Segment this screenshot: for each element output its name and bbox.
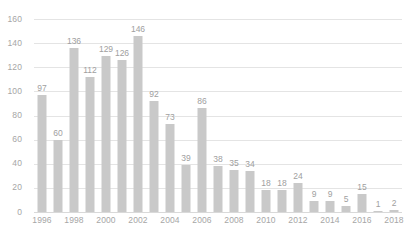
- bar-value-label: 18: [277, 179, 286, 188]
- x-axis-tick-label: 2010: [256, 216, 275, 225]
- bar-value-label: 2: [392, 199, 397, 208]
- bar-series: 9760136112129126146927339863835341818249…: [34, 19, 402, 212]
- bar-value-label: 112: [83, 66, 97, 75]
- bar-group[interactable]: 129: [98, 19, 114, 212]
- bar[interactable]: [198, 108, 207, 212]
- bar-value-label: 38: [213, 155, 222, 164]
- bar-group[interactable]: 9: [322, 19, 338, 212]
- bar-group[interactable]: 35: [226, 19, 242, 212]
- bar-group[interactable]: 136: [66, 19, 82, 212]
- bar-value-label: 60: [53, 129, 62, 138]
- bar-value-label: 9: [312, 190, 317, 199]
- bar-value-label: 24: [293, 172, 302, 181]
- bar[interactable]: [342, 206, 351, 212]
- y-axis-tick-label: 160: [0, 15, 22, 24]
- bar[interactable]: [118, 60, 127, 212]
- bar[interactable]: [310, 201, 319, 212]
- bar-value-label: 1: [376, 200, 381, 209]
- y-axis-tick-label: 20: [0, 183, 22, 192]
- bar[interactable]: [358, 194, 367, 212]
- x-axis-tick-label: 1998: [64, 216, 83, 225]
- bar[interactable]: [326, 201, 335, 212]
- bar[interactable]: [54, 140, 63, 212]
- x-axis-tick-label: 2006: [192, 216, 211, 225]
- bar[interactable]: [38, 95, 47, 212]
- bar[interactable]: [150, 101, 159, 212]
- x-axis-tick-label: 2000: [96, 216, 115, 225]
- bar-value-label: 73: [165, 113, 174, 122]
- x-axis-tick-labels: 1996199820002002200420062008201020122014…: [34, 216, 402, 236]
- y-axis-tick-label: 120: [0, 63, 22, 72]
- bar-group[interactable]: 34: [242, 19, 258, 212]
- bar[interactable]: [182, 165, 191, 212]
- bar-group[interactable]: 24: [290, 19, 306, 212]
- bar[interactable]: [246, 171, 255, 212]
- bar-group[interactable]: 18: [274, 19, 290, 212]
- x-axis-tick-label: 2016: [352, 216, 371, 225]
- bar-group[interactable]: 39: [178, 19, 194, 212]
- bar-group[interactable]: 146: [130, 19, 146, 212]
- bar-value-label: 146: [131, 25, 145, 34]
- bar-group[interactable]: 92: [146, 19, 162, 212]
- y-axis-tick-label: 60: [0, 135, 22, 144]
- x-axis-tick-label: 2014: [320, 216, 339, 225]
- axis-baseline: [34, 212, 402, 213]
- bar-group[interactable]: 112: [82, 19, 98, 212]
- bar-group[interactable]: 86: [194, 19, 210, 212]
- bar-group[interactable]: 38: [210, 19, 226, 212]
- bar-group[interactable]: 2: [386, 19, 402, 212]
- bar-group[interactable]: 126: [114, 19, 130, 212]
- bar-value-label: 86: [197, 97, 206, 106]
- bar-value-label: 34: [245, 160, 254, 169]
- x-axis-tick-label: 1996: [32, 216, 51, 225]
- bar[interactable]: [278, 190, 287, 212]
- x-axis-tick-label: 2002: [128, 216, 147, 225]
- bar-group[interactable]: 73: [162, 19, 178, 212]
- bar[interactable]: [390, 210, 399, 212]
- bar-group[interactable]: 15: [354, 19, 370, 212]
- bar-value-label: 35: [229, 159, 238, 168]
- x-axis-tick-label: 2012: [288, 216, 307, 225]
- bar-value-label: 136: [67, 37, 81, 46]
- bar[interactable]: [230, 170, 239, 212]
- bar-value-label: 126: [115, 49, 129, 58]
- y-axis-tick-label: 40: [0, 159, 22, 168]
- y-axis-tick-label: 100: [0, 87, 22, 96]
- bar[interactable]: [102, 56, 111, 212]
- x-axis-tick-label: 2018: [384, 216, 403, 225]
- y-axis-tick-label: 140: [0, 39, 22, 48]
- bar[interactable]: [294, 183, 303, 212]
- bar[interactable]: [374, 211, 383, 212]
- bar[interactable]: [262, 190, 271, 212]
- bar[interactable]: [166, 124, 175, 212]
- y-axis-tick-label: 0: [0, 208, 22, 217]
- bar-group[interactable]: 18: [258, 19, 274, 212]
- x-axis-tick-label: 2004: [160, 216, 179, 225]
- bar-group[interactable]: 9: [306, 19, 322, 212]
- bar-group[interactable]: 1: [370, 19, 386, 212]
- bar-group[interactable]: 60: [50, 19, 66, 212]
- bar-value-label: 18: [261, 179, 270, 188]
- bar[interactable]: [86, 77, 95, 212]
- plot-area: 020406080100120140160 976013611212912614…: [34, 19, 402, 212]
- bar-value-label: 5: [344, 195, 349, 204]
- bar-group[interactable]: 97: [34, 19, 50, 212]
- bar-value-label: 97: [37, 84, 46, 93]
- bar[interactable]: [70, 48, 79, 212]
- bar-value-label: 9: [328, 190, 333, 199]
- bar-group[interactable]: 5: [338, 19, 354, 212]
- bar-value-label: 92: [149, 90, 158, 99]
- y-axis-tick-label: 80: [0, 111, 22, 120]
- bar-chart: 020406080100120140160 976013611212912614…: [0, 0, 410, 241]
- bar[interactable]: [134, 36, 143, 212]
- bar[interactable]: [214, 166, 223, 212]
- bar-value-label: 15: [357, 183, 366, 192]
- bar-value-label: 129: [99, 45, 113, 54]
- x-axis-tick-label: 2008: [224, 216, 243, 225]
- bar-value-label: 39: [181, 154, 190, 163]
